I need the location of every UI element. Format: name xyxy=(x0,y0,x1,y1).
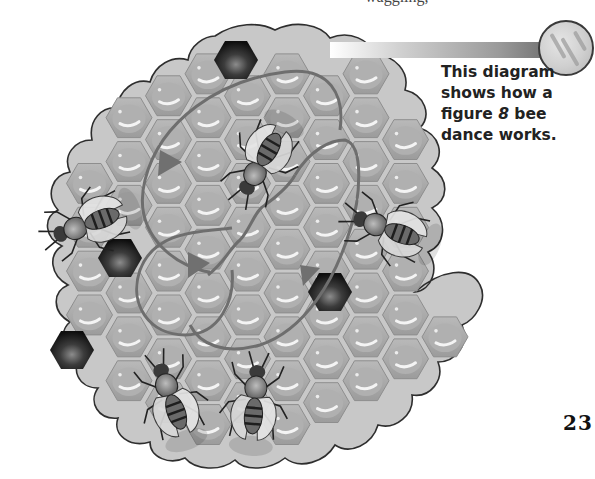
page-number: 23 xyxy=(563,411,593,435)
caption-line: dance works. xyxy=(441,125,591,146)
caption-bar xyxy=(330,42,555,58)
caption-text: shows how a xyxy=(441,84,553,102)
caption-line: figure 8 bee xyxy=(441,104,591,125)
caption: This diagram shows how a figure 8 bee da… xyxy=(441,62,591,146)
caption-line: This diagram xyxy=(441,62,591,83)
caption-line: shows how a xyxy=(441,83,591,104)
caption-text: bee xyxy=(509,105,547,123)
caption-emphasis: 8 xyxy=(498,105,509,123)
caption-text: figure xyxy=(441,105,498,123)
